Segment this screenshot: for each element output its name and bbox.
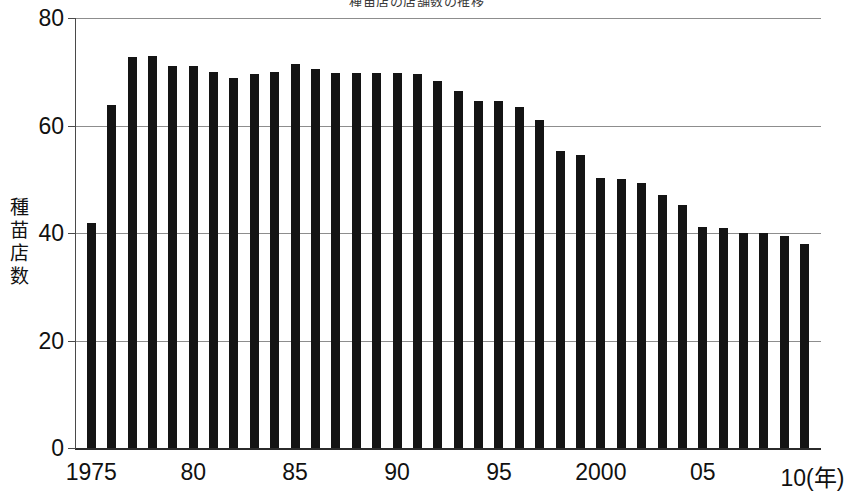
bar: [535, 120, 544, 448]
bar: [617, 179, 626, 448]
bar: [698, 227, 707, 448]
bar: [637, 183, 646, 448]
bar: [474, 101, 483, 448]
y-tick-label: 60: [38, 112, 64, 139]
bar: [739, 233, 748, 448]
bar: [128, 57, 137, 448]
y-tick-label: 20: [38, 327, 64, 354]
y-tick-mark: [68, 448, 76, 449]
bar: [515, 107, 524, 448]
y-axis-title: 種 苗 店 数: [6, 196, 32, 288]
bar: [168, 66, 177, 448]
bar: [352, 73, 361, 448]
y-axis-title-char-1: 苗: [6, 219, 32, 242]
bar: [250, 74, 259, 448]
y-axis-title-char-0: 種: [6, 196, 32, 219]
plot-area: 020406080 19758085909520000510(年): [75, 18, 821, 448]
bar: [433, 81, 442, 448]
bar: [413, 74, 422, 448]
x-tick-label: 2000: [575, 459, 626, 486]
bar: [576, 155, 585, 448]
chart-title: 種苗店の店舗数の推移: [0, 0, 833, 7]
bar: [759, 233, 768, 448]
x-axis-unit-label: (年): [806, 465, 844, 491]
y-tick-label: 0: [51, 435, 64, 462]
x-tick-label: 80: [180, 459, 206, 486]
y-tick-label: 40: [38, 220, 64, 247]
bar: [148, 56, 157, 448]
y-tick-label: 80: [38, 5, 64, 32]
bar: [678, 205, 687, 448]
bar: [596, 178, 605, 448]
bar: [556, 151, 565, 448]
bar: [189, 66, 198, 448]
y-axis-title-char-2: 店: [6, 242, 32, 265]
x-axis-line: [75, 448, 821, 450]
bar: [800, 244, 809, 448]
x-tick-label: 85: [282, 459, 308, 486]
bar: [780, 236, 789, 448]
bar: [209, 72, 218, 448]
x-tick-label: 1975: [66, 459, 117, 486]
bar: [454, 91, 463, 448]
bar: [229, 78, 238, 448]
bar: [107, 105, 116, 448]
bar: [372, 73, 381, 448]
bar: [311, 69, 320, 448]
bar: [393, 73, 402, 448]
bar: [494, 101, 503, 448]
x-tick-label: 90: [384, 459, 410, 486]
bar: [270, 72, 279, 448]
y-axis-title-char-3: 数: [6, 265, 32, 288]
bar: [719, 228, 728, 448]
bars-layer: [75, 18, 821, 448]
bar: [331, 73, 340, 448]
x-tick-label: 10(年): [780, 459, 844, 493]
bar: [658, 195, 667, 448]
bar: [87, 223, 96, 448]
bar: [291, 64, 300, 448]
x-tick-label: 05: [690, 459, 716, 486]
x-tick-label: 95: [486, 459, 512, 486]
